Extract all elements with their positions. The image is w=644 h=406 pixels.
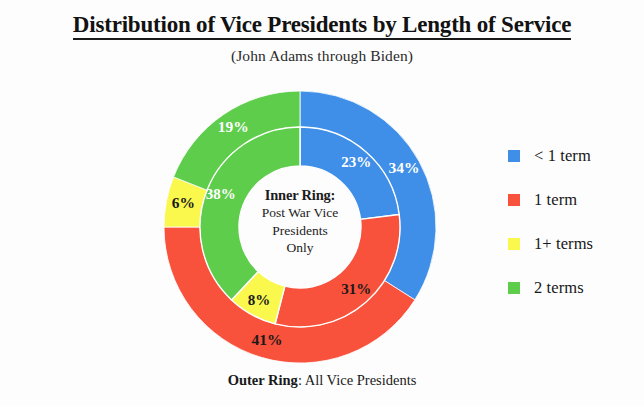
inner-ring-label--1-term: 23% xyxy=(341,154,371,170)
donut-chart-svg: 34%41%6%19%23%31%8%38% xyxy=(163,90,437,364)
outer-ring-label--1-term: 34% xyxy=(389,159,420,176)
legend-item: 1 term xyxy=(508,178,593,222)
legend-swatch-icon xyxy=(508,194,520,206)
outer-ring-caption-rest: : All Vice Presidents xyxy=(298,372,416,388)
page-title: Distribution of Vice Presidents by Lengt… xyxy=(73,12,571,40)
outer-ring-label-2-terms: 19% xyxy=(218,118,249,135)
legend-item-label: 1 term xyxy=(534,190,577,210)
legend-item: 2 terms xyxy=(508,266,593,310)
legend-swatch-icon xyxy=(508,238,520,250)
legend-item-label: 1+ terms xyxy=(534,234,593,254)
donut-chart: 34%41%6%19%23%31%8%38% xyxy=(163,90,437,364)
chart-legend: < 1 term1 term1+ terms2 terms xyxy=(508,134,593,310)
page-subtitle: (John Adams through Biden) xyxy=(0,47,644,65)
outer-ring-caption-heading: Outer Ring xyxy=(228,372,298,388)
legend-item-label: 2 terms xyxy=(534,278,584,298)
title-block: Distribution of Vice Presidents by Lengt… xyxy=(0,12,644,65)
legend-item-label: < 1 term xyxy=(534,146,591,166)
outer-ring-label-1-terms: 6% xyxy=(172,194,195,211)
legend-swatch-icon xyxy=(508,150,520,162)
legend-swatch-icon xyxy=(508,282,520,294)
outer-ring-caption: Outer Ring: All Vice Presidents xyxy=(0,372,644,389)
inner-ring-label-1-terms: 8% xyxy=(248,292,271,308)
inner-ring-label-2-terms: 38% xyxy=(206,186,236,202)
inner-ring-label-1-term: 31% xyxy=(341,281,371,297)
legend-item: 1+ terms xyxy=(508,222,593,266)
outer-ring-label-1-term: 41% xyxy=(251,331,282,348)
legend-item: < 1 term xyxy=(508,134,593,178)
chart-page: Distribution of Vice Presidents by Lengt… xyxy=(0,0,644,406)
